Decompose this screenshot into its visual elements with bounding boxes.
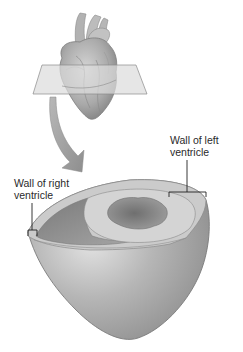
ventricle-cross-section <box>28 180 209 340</box>
label-wall-of-right-ventricle: Wall of right ventricle <box>14 177 69 201</box>
diagram-graphic <box>0 0 243 352</box>
label-wall-of-left-ventricle: Wall of left ventricle <box>170 134 219 158</box>
label-line-1: Wall of right <box>14 177 69 189</box>
heart-diagram: Wall of left ventricle Wall of right ven… <box>0 0 243 352</box>
section-plane <box>33 65 147 94</box>
label-line-2: ventricle <box>170 146 219 158</box>
label-line-2: ventricle <box>14 189 69 201</box>
label-line-1: Wall of left <box>170 134 219 146</box>
